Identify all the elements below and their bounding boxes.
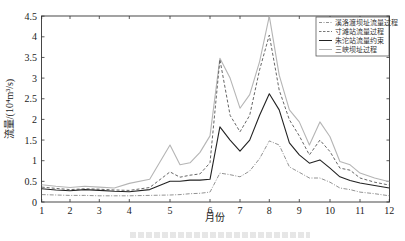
x-tick-label: 2 [68, 205, 73, 216]
x-tick-label: 1 [39, 205, 44, 216]
y-tick-label: 2 [32, 114, 37, 125]
figure-caption [130, 232, 310, 238]
x-tick-label: 4 [127, 205, 132, 216]
legend-label: 三峡坝址过程 [335, 45, 377, 54]
y-tick-label: 3.5 [25, 52, 38, 63]
x-tick-label: 10 [325, 205, 335, 216]
legend-label: 溪洛渡坝址流量过程 [335, 18, 398, 27]
x-tick-label: 7 [238, 205, 243, 216]
legend-label: 寸滩站流量过程 [335, 27, 384, 36]
y-tick-label: 1.5 [25, 135, 38, 146]
y-tick-label: 0 [32, 197, 37, 208]
x-tick-label: 8 [267, 205, 272, 216]
y-tick-label: 3 [32, 73, 37, 84]
legend: 溪洛渡坝址流量过程 寸滩站流量过程 朱沱站流量约束 三峡坝址过程 [316, 17, 398, 56]
x-tick-label: 9 [297, 205, 302, 216]
x-tick-label: 12 [384, 205, 394, 216]
y-tick-label: 0.5 [25, 176, 38, 187]
y-axis-title: 流量/(10⁴m³/s) [3, 79, 16, 139]
x-tick-label: 5 [168, 205, 173, 216]
y-tick-label: 1 [32, 155, 37, 166]
line-chart: 00.511.522.533.544.5 123456789101112 月份 … [0, 0, 405, 241]
y-tick-label: 2.5 [25, 93, 38, 104]
x-tick-label: 3 [97, 205, 102, 216]
x-axis-title: 月份 [205, 212, 225, 223]
legend-label: 朱沱站流量约束 [335, 36, 384, 45]
x-tick-label: 11 [355, 205, 365, 216]
y-tick-label: 4 [32, 31, 37, 42]
y-tick-label: 4.5 [25, 11, 38, 22]
